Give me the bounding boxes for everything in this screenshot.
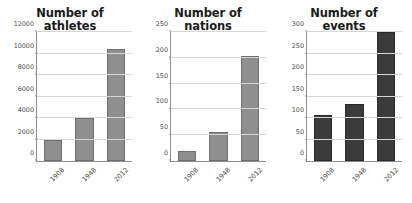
x-axis-athletes: 190819482012 [0,162,140,200]
plot-wrap-nations: 050100150200250 [140,32,276,162]
y-tick-label: 2000 [18,128,34,136]
gridline [37,139,132,140]
y-tick-label: 300 [292,20,304,28]
y-tick-label: 10000 [14,42,34,50]
gridline [307,96,402,97]
x-axis-events: 190819482012 [276,162,412,200]
y-tick-label: 0 [164,149,168,157]
y-tick-label: 200 [156,46,168,54]
gridline [37,53,132,54]
chart-panel-nations: Number of nations 050100150200250 190819… [140,0,276,203]
bar[interactable] [377,32,395,161]
x-tick-label: 1908 [49,166,67,184]
bars-layer-athletes [37,32,132,161]
x-tick-slot: 2012 [100,162,132,200]
gridline [171,134,266,135]
y-tick-label: 0 [300,149,304,157]
y-tick-label: 12000 [14,20,34,28]
y-tick-label: 50 [160,123,168,131]
x-tick-label: 1948 [215,166,233,184]
gridline [307,74,402,75]
bar-slot [234,32,266,161]
chart-panel-events: Number of events 050100150200250300 1908… [276,0,412,203]
x-tick-label: 2012 [247,166,265,184]
x-tick-label: 1948 [351,166,369,184]
y-tick-mark [305,117,308,118]
y-tick-mark [169,160,172,161]
bar-slot [37,32,69,161]
bar-slot [203,32,235,161]
plot-wrap-athletes: 020004000600080001000012000 [0,32,140,162]
x-tick-slot: 2012 [370,162,402,200]
bar[interactable] [44,140,62,162]
x-tick-group-nations: 190819482012 [170,162,266,200]
bar-chart-figure: Number of athletes 020004000600080001000… [0,0,412,203]
y-tick-label: 200 [292,63,304,71]
y-tick-label: 100 [292,106,304,114]
bar-slot [69,32,101,161]
x-tick-slot: 1908 [306,162,338,200]
bar[interactable] [345,104,363,161]
x-tick-slot: 1948 [68,162,100,200]
y-tick-mark [305,52,308,53]
x-axis-nations: 190819482012 [140,162,276,200]
gridline [171,31,266,32]
x-tick-slot: 1948 [202,162,234,200]
x-tick-group-events: 190819482012 [306,162,402,200]
y-tick-mark [305,95,308,96]
y-tick-label: 4000 [18,106,34,114]
gridline [37,117,132,118]
y-tick-mark [169,56,172,57]
x-tick-slot: 1908 [170,162,202,200]
bars-layer-nations [171,32,266,161]
y-tick-mark [169,31,172,32]
bar-slot [100,32,132,161]
plot-area-athletes: 020004000600080001000012000 [36,32,132,162]
bar-slot [339,32,371,161]
gridline [307,53,402,54]
y-tick-label: 150 [156,72,168,80]
y-tick-label: 250 [292,42,304,50]
bar-slot [370,32,402,161]
gridline [171,57,266,58]
y-tick-label: 8000 [18,63,34,71]
y-tick-mark [305,74,308,75]
x-tick-label: 1908 [319,166,337,184]
bar[interactable] [178,151,196,161]
y-tick-mark [35,52,38,53]
y-tick-mark [305,138,308,139]
bar-slot [307,32,339,161]
plot-area-nations: 050100150200250 [170,32,266,162]
y-tick-mark [35,138,38,139]
bar[interactable] [107,49,125,161]
y-tick-mark [169,108,172,109]
plot-wrap-events: 050100150200250300 [276,32,412,162]
y-tick-label: 150 [292,85,304,93]
bar[interactable] [209,132,227,161]
y-tick-label: 50 [296,128,304,136]
y-tick-mark [35,117,38,118]
y-tick-mark [35,160,38,161]
gridline [307,117,402,118]
bar-slot [171,32,203,161]
y-tick-mark [169,82,172,83]
y-tick-label: 0 [30,149,34,157]
y-tick-mark [169,134,172,135]
y-tick-label: 250 [156,20,168,28]
gridline [307,139,402,140]
gridline [171,83,266,84]
x-tick-label: 1908 [183,166,201,184]
gridline [37,31,132,32]
x-tick-slot: 1948 [338,162,370,200]
x-tick-label: 2012 [113,166,131,184]
bars-layer-events [307,32,402,161]
y-tick-mark [35,74,38,75]
y-tick-mark [305,31,308,32]
x-tick-group-athletes: 190819482012 [36,162,132,200]
plot-area-events: 050100150200250300 [306,32,402,162]
gridline [171,108,266,109]
gridline [37,74,132,75]
y-tick-mark [305,160,308,161]
gridline [37,96,132,97]
chart-panel-athletes: Number of athletes 020004000600080001000… [0,0,140,203]
